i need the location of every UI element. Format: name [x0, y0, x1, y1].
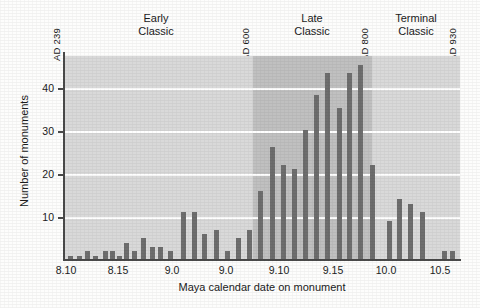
bar	[337, 108, 342, 260]
bar	[247, 230, 252, 260]
period-label-line2: Classic	[374, 25, 458, 38]
y-tick-mark-40	[58, 88, 64, 90]
bar	[325, 73, 330, 260]
bar	[397, 199, 402, 260]
y-tick-label-40: 40	[28, 82, 54, 94]
bar	[202, 234, 207, 260]
y-tick-mark-10	[58, 217, 64, 219]
x-tick-label-6: 10.0	[366, 264, 406, 276]
bar	[314, 95, 319, 260]
period-label-early-classic: Early Classic	[106, 12, 206, 38]
bar	[236, 238, 241, 260]
period-label-late-classic: Late Classic	[262, 12, 362, 38]
y-tick-label-10: 10	[28, 211, 54, 223]
x-tick-label-3: 9.0	[206, 264, 246, 276]
period-label-line2: Classic	[106, 25, 206, 38]
bar	[408, 204, 413, 260]
y-axis-label: Number of monuments	[18, 41, 30, 261]
bar	[124, 243, 129, 260]
period-label-terminal-classic: Terminal Classic	[374, 12, 458, 38]
period-label-line1: Early	[106, 12, 206, 25]
bar	[281, 165, 286, 260]
x-tick-label-7: 10.5	[420, 264, 460, 276]
bar	[270, 147, 275, 260]
bar	[181, 212, 186, 260]
bar	[141, 238, 146, 260]
maya-monuments-histogram-figure: AD 239 AD 600 AD 800 AD 930 Early Classi…	[0, 0, 480, 308]
bar	[387, 221, 392, 260]
x-tick-label-4: 9.10	[259, 264, 299, 276]
bar	[347, 73, 352, 260]
bar	[420, 212, 425, 260]
x-axis-label: Maya calendar date on monument	[64, 281, 460, 293]
bar	[258, 191, 263, 260]
y-tick-mark-20	[58, 174, 64, 176]
x-tick-label-2: 9.0	[152, 264, 192, 276]
x-tick-label-0: 8.10	[46, 264, 86, 276]
x-tick-label-1: 8.15	[98, 264, 138, 276]
bar	[192, 212, 197, 260]
y-axis-line	[63, 52, 65, 261]
bar	[292, 169, 297, 260]
period-label-line1: Late	[262, 12, 362, 25]
plot-area	[64, 56, 460, 260]
bar	[358, 65, 363, 260]
x-tick-label-5: 9.15	[313, 264, 353, 276]
x-axis-line	[63, 259, 461, 261]
bars-layer	[64, 56, 460, 260]
bar	[370, 165, 375, 260]
y-tick-label-30: 30	[28, 125, 54, 137]
date-marker-ad-239: AD 239	[51, 28, 62, 61]
period-label-line1: Terminal	[374, 12, 458, 25]
bar	[303, 130, 308, 260]
period-label-line2: Classic	[262, 25, 362, 38]
bar	[214, 230, 219, 260]
y-tick-label-20: 20	[28, 168, 54, 180]
y-tick-mark-30	[58, 131, 64, 133]
